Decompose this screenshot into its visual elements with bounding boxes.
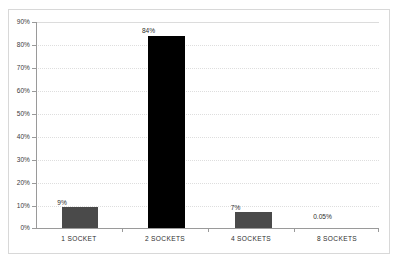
y-axis-label: 90% [0, 19, 30, 26]
data-label-1-socket: 9% [44, 200, 80, 207]
x-axis-label-8-sockets: 8 SOCKETS [294, 235, 380, 243]
gridline [36, 91, 379, 92]
y-axis-label: 60% [0, 88, 30, 95]
y-axis-label: 40% [0, 134, 30, 141]
bar-1-socket [62, 207, 98, 228]
y-axis-labels: 90% 80% 70% 60% 50% 40% 30% 20% 10% 0% [0, 0, 30, 264]
x-axis-tick [378, 228, 379, 232]
gridline [36, 160, 379, 161]
data-label-4-sockets: 7% [217, 205, 254, 212]
x-axis-tick [208, 228, 209, 232]
gridline [36, 183, 379, 184]
bar-2-sockets [148, 36, 185, 228]
gridline [36, 45, 379, 46]
plot-area [36, 22, 379, 228]
y-axis-label: 0% [0, 225, 30, 232]
data-label-2-sockets: 84% [130, 28, 167, 35]
x-axis-tick [294, 228, 295, 232]
y-axis-label: 50% [0, 111, 30, 118]
gridline [36, 68, 379, 69]
y-axis-label: 10% [0, 203, 30, 210]
data-label-8-sockets: 0.05% [304, 214, 341, 221]
y-axis-label: 20% [0, 180, 30, 187]
x-axis-label-2-sockets: 2 SOCKETS [122, 235, 208, 243]
bar-chart: 90% 80% 70% 60% 50% 40% 30% 20% 10% 0% 9 [0, 0, 399, 264]
x-axis-label-1-socket: 1 SOCKET [36, 235, 122, 243]
y-axis-label: 80% [0, 42, 30, 49]
y-axis-label: 30% [0, 157, 30, 164]
y-axis-line [36, 22, 37, 229]
gridline [36, 22, 379, 23]
y-axis-label: 70% [0, 65, 30, 72]
x-axis-label-4-sockets: 4 SOCKETS [208, 235, 294, 243]
bar-4-sockets [235, 212, 272, 228]
gridline [36, 114, 379, 115]
x-axis-tick [122, 228, 123, 232]
gridline [36, 137, 379, 138]
